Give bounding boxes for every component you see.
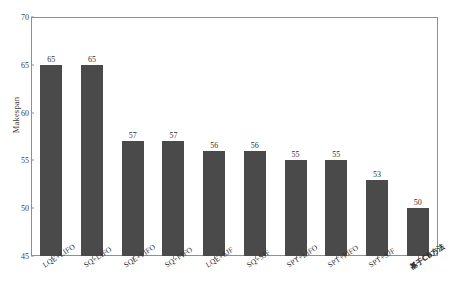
bar-slot: 56 xyxy=(194,17,235,256)
bar-value-label: 65 xyxy=(47,55,55,64)
bar xyxy=(325,160,347,256)
bar xyxy=(244,151,266,256)
y-axis-tick-mark xyxy=(31,64,34,65)
bar-value-label: 57 xyxy=(129,131,137,140)
bar-value-label: 50 xyxy=(414,198,422,207)
bar-value-label: 53 xyxy=(373,170,381,179)
x-axis-labels: LQE+LIFOSQ+LIFOSQE+FIFOSQ+FIFOLQE+SJFSQ+… xyxy=(31,258,438,300)
y-axis-tick-label: 45 xyxy=(0,252,29,261)
x-axis-label-slot: SQ+FIFO xyxy=(153,258,194,300)
bar-slot: 57 xyxy=(153,17,194,256)
bar-slot: 65 xyxy=(31,17,72,256)
bar xyxy=(203,151,225,256)
x-axis-label-slot: LQE+LIFO xyxy=(31,258,72,300)
bar-slot: 57 xyxy=(112,17,153,256)
y-axis-tick-mark xyxy=(31,160,34,161)
bar xyxy=(122,141,144,256)
bar-slot: 55 xyxy=(316,17,357,256)
bar-slot: 50 xyxy=(397,17,438,256)
bar-value-label: 55 xyxy=(292,150,300,159)
bar-series: 65655757565655555350 xyxy=(31,17,438,256)
bar xyxy=(40,65,62,256)
x-axis-label-slot: SPT+LIFO xyxy=(275,258,316,300)
bar xyxy=(162,141,184,256)
bar-chart-figure: Makespan 65655757565655555350 LQE+LIFOSQ… xyxy=(0,0,451,300)
x-axis-label-slot: SQ+LIFO xyxy=(72,258,113,300)
bar-value-label: 56 xyxy=(210,141,218,150)
x-axis-label-slot: LQE+SJF xyxy=(194,258,235,300)
x-axis-label-slot: SQ+SJF xyxy=(235,258,276,300)
bar-slot: 55 xyxy=(275,17,316,256)
bar-value-label: 65 xyxy=(88,55,96,64)
y-axis-tick-mark xyxy=(31,112,34,113)
y-axis-tick-label: 60 xyxy=(0,108,29,117)
y-axis-tick-label: 55 xyxy=(0,156,29,165)
bar-slot: 53 xyxy=(357,17,398,256)
bar xyxy=(366,180,388,256)
bar-slot: 65 xyxy=(72,17,113,256)
x-axis-label-slot: SPT+FIFO xyxy=(316,258,357,300)
bar xyxy=(81,65,103,256)
bar-slot: 56 xyxy=(235,17,276,256)
x-axis-label-slot: 基于CB方法 xyxy=(397,258,438,300)
y-axis-tick-mark xyxy=(31,208,34,209)
bar-value-label: 57 xyxy=(169,131,177,140)
y-axis-tick-mark xyxy=(31,256,34,257)
bar-value-label: 56 xyxy=(251,141,259,150)
bar xyxy=(285,160,307,256)
y-axis-tick-label: 50 xyxy=(0,204,29,213)
bar-value-label: 55 xyxy=(332,150,340,159)
y-axis-tick-mark xyxy=(31,17,34,18)
x-axis-label-slot: SPT+SJF xyxy=(357,258,398,300)
y-axis-tick-label: 65 xyxy=(0,60,29,69)
x-axis-label-slot: SQE+FIFO xyxy=(112,258,153,300)
y-axis-tick-label: 70 xyxy=(0,13,29,22)
